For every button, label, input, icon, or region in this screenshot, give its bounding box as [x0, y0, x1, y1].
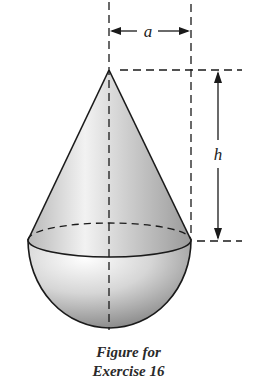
svg-text:h: h [214, 145, 223, 164]
svg-text:a: a [144, 22, 153, 41]
caption-line-2: Exercise 16 [0, 362, 257, 380]
height-dimension: h [214, 71, 223, 240]
radius-dimension: a [110, 22, 190, 41]
cone-hemisphere-figure: a h [0, 0, 257, 340]
caption-line-1: Figure for [0, 343, 257, 361]
